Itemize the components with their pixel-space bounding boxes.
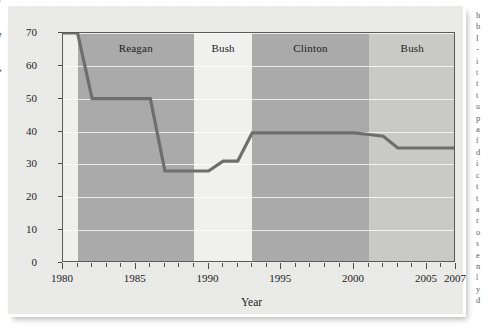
body-text-line: t bbox=[476, 67, 503, 78]
body-text-line: a bbox=[476, 124, 503, 135]
x-axis-tick-mark-major bbox=[208, 263, 209, 269]
body-text-line: o bbox=[476, 227, 503, 238]
x-axis-tick-mark-major bbox=[135, 263, 136, 269]
y-axis-tick-mark bbox=[58, 163, 62, 164]
x-axis-tick-mark bbox=[77, 263, 78, 267]
body-text-line: t bbox=[476, 193, 503, 204]
body-text-line: f bbox=[476, 135, 503, 146]
body-text-line: i bbox=[476, 56, 503, 67]
band-label-reagan-0: Reagan bbox=[78, 42, 194, 54]
x-axis-tick-mark bbox=[339, 263, 340, 267]
body-text-line: d bbox=[476, 147, 503, 158]
x-axis-tick-mark bbox=[440, 263, 441, 267]
body-text-line: c bbox=[476, 170, 503, 181]
body-text-line: I bbox=[476, 33, 503, 44]
top-rate-line-series bbox=[63, 33, 455, 262]
band-label-bush-1: Bush bbox=[194, 42, 252, 54]
x-axis-tick-mark bbox=[222, 263, 223, 267]
x-axis-tick-label: 1990 bbox=[197, 272, 219, 284]
x-axis-title: Year bbox=[0, 296, 503, 308]
y-axis-tick-label: 0 bbox=[0, 256, 37, 268]
y-axis-tick-mark bbox=[58, 65, 62, 66]
body-text-line: p bbox=[476, 113, 503, 124]
y-axis-tick-mark bbox=[58, 98, 62, 99]
body-text-line: t bbox=[476, 78, 503, 89]
body-text-line: t bbox=[476, 90, 503, 101]
x-axis-tick-mark-major bbox=[455, 263, 456, 269]
x-axis-tick-mark bbox=[309, 263, 310, 267]
x-axis-tick-mark-major bbox=[280, 263, 281, 269]
x-axis-tick-mark bbox=[149, 263, 150, 267]
body-text-line: a bbox=[476, 204, 503, 215]
y-axis-tick-mark bbox=[58, 196, 62, 197]
body-text-line: b bbox=[476, 21, 503, 32]
page-body-text-column: hbI-itttupafdicttarosenlyd bbox=[476, 10, 503, 310]
x-axis-tick-mark bbox=[411, 263, 412, 267]
y-axis-tick-label: 70 bbox=[0, 26, 37, 38]
y-axis-tick-label: 40 bbox=[0, 125, 37, 137]
y-axis-tick-label: 60 bbox=[0, 59, 37, 71]
body-text-line: r bbox=[476, 215, 503, 226]
x-axis-tick-mark bbox=[164, 263, 165, 267]
x-axis-tick-mark bbox=[368, 263, 369, 267]
x-axis-tick-mark bbox=[237, 263, 238, 267]
body-text-line: i bbox=[476, 158, 503, 169]
body-text-line: u bbox=[476, 101, 503, 112]
x-axis-tick-mark-major bbox=[62, 263, 63, 269]
x-axis-tick-mark bbox=[266, 263, 267, 267]
y-axis-tick-label: 20 bbox=[0, 190, 37, 202]
y-axis-tick-label: 10 bbox=[0, 223, 37, 235]
x-axis-tick-mark-major bbox=[353, 263, 354, 269]
body-text-line: n bbox=[476, 261, 503, 272]
y-axis-tick-label: 30 bbox=[0, 157, 37, 169]
y-axis-tick-mark bbox=[58, 229, 62, 230]
y-axis-tick-mark bbox=[58, 32, 62, 33]
x-axis-tick-mark bbox=[91, 263, 92, 267]
x-axis-tick-mark bbox=[382, 263, 383, 267]
body-text-line: - bbox=[476, 44, 503, 55]
x-axis-tick-mark bbox=[324, 263, 325, 267]
y-axis-tick-label: 50 bbox=[0, 92, 37, 104]
band-label-clinton-2: Clinton bbox=[252, 42, 368, 54]
x-axis-tick-label: 1995 bbox=[269, 272, 291, 284]
band-label-bush-3: Bush bbox=[369, 42, 455, 54]
body-text-line: t bbox=[476, 181, 503, 192]
x-axis-tick-label: 2005 bbox=[415, 272, 437, 284]
plot-area: ReaganBushClintonBush bbox=[62, 32, 455, 262]
body-text-line: l bbox=[476, 272, 503, 283]
figure-page: ReaganBushClintonBush 706050403020100 To… bbox=[0, 0, 503, 336]
body-text-line: h bbox=[476, 10, 503, 21]
x-axis-tick-mark bbox=[178, 263, 179, 267]
x-axis-tick-mark-major bbox=[426, 263, 427, 269]
x-axis-tick-mark bbox=[120, 263, 121, 267]
x-axis-tick-mark bbox=[193, 263, 194, 267]
x-axis-tick-label: 1980 bbox=[51, 272, 73, 284]
body-text-line: e bbox=[476, 250, 503, 261]
x-axis-tick-mark bbox=[295, 263, 296, 267]
body-text-line: d bbox=[476, 295, 503, 306]
x-axis-tick-label: 1985 bbox=[124, 272, 146, 284]
body-text-line: y bbox=[476, 284, 503, 295]
x-axis-tick-mark bbox=[397, 263, 398, 267]
x-axis-tick-label: 2000 bbox=[342, 272, 364, 284]
x-axis-tick-mark bbox=[106, 263, 107, 267]
x-axis-tick-label: 2007 bbox=[444, 272, 466, 284]
x-axis-tick-mark bbox=[251, 263, 252, 267]
y-axis-tick-mark bbox=[58, 131, 62, 132]
body-text-line: s bbox=[476, 238, 503, 249]
